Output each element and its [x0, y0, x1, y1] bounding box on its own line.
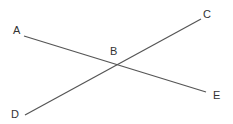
- point-label-c: C: [203, 9, 211, 20]
- line-segment-dc: [25, 19, 201, 115]
- diagram-canvas: A B C D E: [0, 0, 233, 124]
- point-label-b: B: [110, 46, 117, 57]
- lines-layer: [0, 0, 233, 124]
- point-label-e: E: [213, 90, 220, 101]
- point-label-a: A: [13, 25, 20, 36]
- point-label-d: D: [11, 109, 19, 120]
